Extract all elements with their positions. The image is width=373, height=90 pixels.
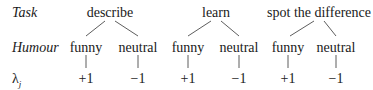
humour-funny: funny xyxy=(70,40,103,56)
task-describe: describe xyxy=(87,5,134,21)
humour-neutral: neutral xyxy=(119,40,158,56)
row-label-task: Task xyxy=(12,5,37,21)
task-spot-the-difference: spot the difference xyxy=(267,5,371,21)
humour-funny: funny xyxy=(272,40,305,56)
lambda-value: −1 xyxy=(329,71,344,87)
lambda-value: −1 xyxy=(131,71,146,87)
humour-funny: funny xyxy=(172,40,205,56)
row-label-humour: Humour xyxy=(12,40,59,56)
humour-neutral: neutral xyxy=(220,40,259,56)
row-label-lambda: λj xyxy=(12,71,21,90)
lambda-value: +1 xyxy=(79,71,94,87)
humour-neutral: neutral xyxy=(317,40,356,56)
lambda-value: +1 xyxy=(181,71,196,87)
lambda-value: +1 xyxy=(281,71,296,87)
lambda-value: −1 xyxy=(232,71,247,87)
task-learn: learn xyxy=(202,5,230,21)
